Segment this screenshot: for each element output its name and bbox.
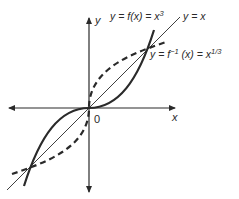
cube-curve-label: y = f(x) = x3: [109, 9, 165, 22]
x-axis-label: x: [171, 111, 178, 123]
inverse-function-diagram: y x 0 y = f(x) = x3 y = x y = f−1 (x) = …: [0, 0, 239, 199]
y-axis-label: y: [94, 14, 102, 26]
cube-root-label: y = f−1 (x) = x1/3: [149, 47, 222, 60]
identity-line: [7, 17, 180, 190]
identity-label: y = x: [182, 10, 206, 22]
origin-label: 0: [94, 113, 100, 125]
